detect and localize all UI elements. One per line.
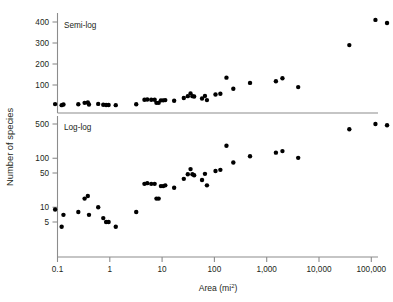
data-point	[385, 123, 389, 127]
data-point	[385, 21, 389, 25]
data-point	[182, 96, 186, 100]
panel-log-log: 50010050105 Log-log	[35, 116, 389, 257]
data-point	[76, 210, 80, 214]
data-point	[218, 168, 222, 172]
panel-semi-log: 400300200100 Semi-log	[35, 13, 389, 113]
data-point	[347, 43, 351, 47]
data-point	[205, 183, 209, 187]
data-point	[61, 213, 65, 217]
data-point	[192, 94, 196, 98]
data-point	[106, 220, 110, 224]
x-axis-tick-labels: 0.11101001,00010,000100,000	[52, 265, 387, 274]
data-point	[213, 169, 217, 173]
x-axis-ticks	[58, 257, 372, 262]
x-tick-label: 1,000	[256, 265, 277, 274]
data-point	[101, 216, 105, 220]
data-point	[134, 210, 138, 214]
top-panel-y-ticks	[53, 22, 58, 85]
data-point	[145, 181, 149, 185]
data-point	[296, 156, 300, 160]
bottom-y-tick-label: 50	[40, 169, 50, 178]
bottom-y-tick-label: 100	[35, 154, 49, 163]
data-point	[87, 102, 91, 106]
data-point	[186, 172, 190, 176]
data-point	[200, 178, 204, 182]
data-point	[172, 186, 176, 190]
x-axis-title: Area (mi2)	[199, 283, 238, 293]
top-panel-y-tick-labels: 400300200100	[35, 18, 49, 90]
data-point	[145, 97, 149, 101]
data-point	[114, 103, 118, 107]
data-point	[274, 79, 278, 83]
chart-canvas: Number of species 400300200100 Semi-log …	[0, 0, 393, 302]
data-point	[203, 94, 207, 98]
bottom-y-tick-label: 500	[35, 120, 49, 129]
data-point	[96, 205, 100, 209]
data-point	[172, 99, 176, 103]
panel-label-log-log: Log-log	[64, 123, 92, 132]
top-y-tick-label: 200	[35, 60, 49, 69]
bottom-panel-points	[53, 122, 389, 229]
x-tick-label: 10	[158, 265, 168, 274]
data-point	[296, 85, 300, 89]
data-point	[347, 127, 351, 131]
x-axis-title-paren: )	[234, 283, 237, 293]
x-tick-label: 1	[108, 265, 113, 274]
data-point	[152, 182, 156, 186]
data-point	[274, 150, 278, 154]
data-point	[86, 194, 90, 198]
data-point	[218, 92, 222, 96]
data-point	[373, 122, 377, 126]
data-point	[163, 183, 167, 187]
x-tick-label: 0.1	[52, 265, 64, 274]
data-point	[224, 144, 228, 148]
panel-label-semi-log: Semi-log	[64, 21, 97, 30]
x-axis-title-text: Area (mi	[199, 283, 232, 293]
data-point	[61, 102, 65, 106]
data-point	[205, 98, 209, 102]
top-y-tick-label: 100	[35, 81, 49, 90]
x-tick-label: 100	[208, 265, 222, 274]
data-point	[59, 225, 63, 229]
data-point	[248, 154, 252, 158]
data-point	[373, 18, 377, 22]
data-point	[188, 167, 192, 171]
data-point	[231, 87, 235, 91]
data-point	[248, 81, 252, 85]
top-y-tick-label: 300	[35, 39, 49, 48]
data-point	[280, 149, 284, 153]
data-point	[76, 102, 80, 106]
bottom-panel-y-tick-labels: 50010050105	[35, 120, 49, 227]
data-point	[53, 207, 57, 211]
x-axis: 0.11101001,00010,000100,000 Area (mi2)	[52, 257, 387, 293]
data-point	[224, 75, 228, 79]
bottom-y-tick-label: 5	[44, 218, 49, 227]
y-axis-title: Number of species	[4, 108, 15, 186]
data-point	[156, 196, 160, 200]
data-point	[192, 173, 196, 177]
data-point	[231, 160, 235, 164]
data-point	[87, 213, 91, 217]
species-area-figure: Number of species 400300200100 Semi-log …	[0, 0, 393, 302]
data-point	[114, 225, 118, 229]
top-y-tick-label: 400	[35, 18, 49, 27]
data-point	[280, 76, 284, 80]
x-tick-label: 10,000	[306, 265, 331, 274]
data-point	[96, 102, 100, 106]
data-point	[163, 98, 167, 102]
data-point	[134, 102, 138, 106]
data-point	[53, 102, 57, 106]
data-point	[106, 103, 110, 107]
x-tick-label: 100,000	[356, 265, 386, 274]
data-point	[213, 92, 217, 96]
data-point	[203, 172, 207, 176]
bottom-y-tick-label: 10	[40, 203, 50, 212]
top-panel-points	[53, 18, 389, 108]
data-point	[182, 177, 186, 181]
